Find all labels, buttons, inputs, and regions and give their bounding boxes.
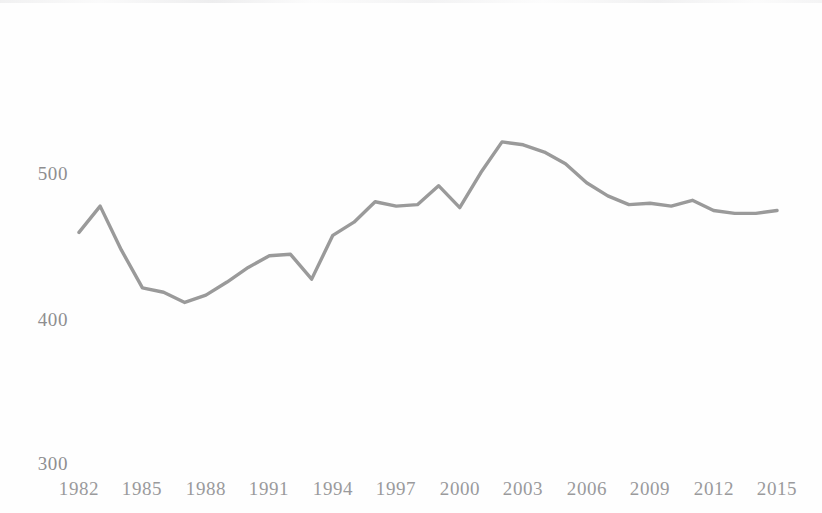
data-series-line [79,142,777,303]
plot-area [0,0,822,513]
line-chart: 500 400 300 1982 1985 1988 1991 1994 199… [0,0,822,513]
